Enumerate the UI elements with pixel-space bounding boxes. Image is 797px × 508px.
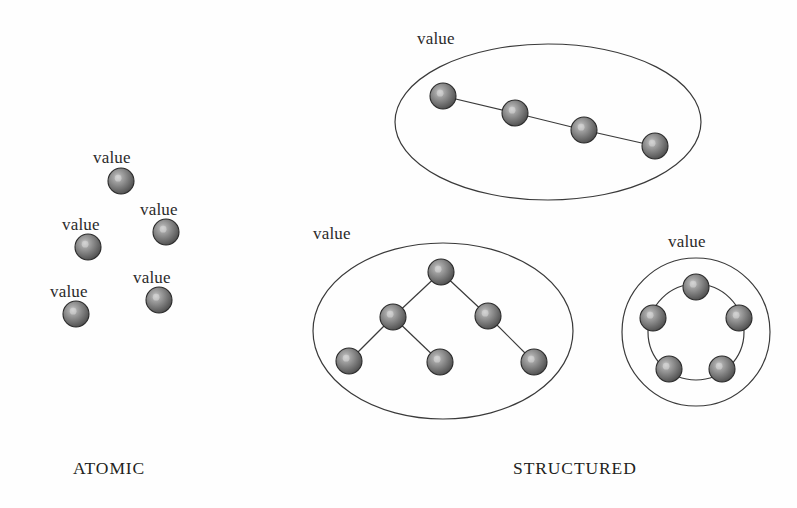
sphere-highlight (482, 310, 489, 317)
structured-value-label-tree: value (313, 224, 351, 244)
sphere-body (380, 304, 406, 330)
sphere-highlight (578, 124, 585, 131)
ring-node-3 (709, 356, 735, 382)
tree-node-5 (427, 349, 453, 375)
sphere-body (108, 168, 134, 194)
sphere-body (571, 117, 597, 143)
diagram-page: valuevaluevaluevaluevaluevaluevaluevalue… (0, 0, 797, 508)
atomic-value-label-2: value (140, 200, 178, 220)
sphere-body (709, 356, 735, 382)
sphere-highlight (733, 312, 740, 319)
sphere-body (726, 305, 752, 331)
sphere-highlight (387, 311, 394, 318)
atomic-value-label-1: value (93, 148, 131, 168)
atomic-value-sphere-4 (146, 287, 172, 313)
atomic-value-sphere-2 (153, 219, 179, 245)
sphere-highlight (343, 355, 350, 362)
sphere-body (642, 133, 668, 159)
sphere-body (427, 349, 453, 375)
sphere-highlight (153, 294, 160, 301)
sphere-body (502, 100, 528, 126)
caption-structured: STRUCTURED (513, 458, 637, 479)
sphere-highlight (716, 363, 723, 370)
sphere-highlight (82, 241, 89, 248)
sphere-highlight (437, 90, 444, 97)
sphere-highlight (70, 308, 77, 315)
ring-node-5 (640, 305, 666, 331)
atomic-value-sphere-5 (63, 301, 89, 327)
sphere-highlight (434, 356, 441, 363)
sphere-body (75, 234, 101, 260)
sphere-highlight (647, 312, 654, 319)
atomic-value-label-5: value (50, 282, 88, 302)
sphere-body (428, 259, 454, 285)
chain-node-2 (502, 100, 528, 126)
tree-node-6 (521, 349, 547, 375)
tree-node-2 (380, 304, 406, 330)
sphere-body (521, 349, 547, 375)
structured-value-label-chain: value (417, 29, 455, 49)
atomic-value-label-4: value (133, 268, 171, 288)
chain-node-3 (571, 117, 597, 143)
sphere-body (63, 301, 89, 327)
atomic-value-sphere-3 (75, 234, 101, 260)
sphere-body (640, 305, 666, 331)
structured-value-label-ring: value (668, 232, 706, 252)
chain-node-4 (642, 133, 668, 159)
caption-atomic: ATOMIC (73, 458, 145, 479)
sphere-highlight (115, 175, 122, 182)
diagram-canvas (0, 0, 797, 508)
sphere-highlight (160, 226, 167, 233)
sphere-body (656, 356, 682, 382)
sphere-highlight (690, 281, 697, 288)
tree-node-3 (475, 303, 501, 329)
tree-node-1 (428, 259, 454, 285)
sphere-highlight (663, 363, 670, 370)
atomic-value-sphere-1 (108, 168, 134, 194)
atomic-value-label-3: value (62, 215, 100, 235)
sphere-body (153, 219, 179, 245)
sphere-body (430, 83, 456, 109)
sphere-highlight (649, 140, 656, 147)
sphere-highlight (509, 107, 516, 114)
sphere-body (475, 303, 501, 329)
ring-node-1 (683, 274, 709, 300)
tree-node-4 (336, 348, 362, 374)
sphere-body (336, 348, 362, 374)
sphere-highlight (528, 356, 535, 363)
ring-node-2 (726, 305, 752, 331)
sphere-body (683, 274, 709, 300)
ring-node-4 (656, 356, 682, 382)
chain-node-1 (430, 83, 456, 109)
sphere-body (146, 287, 172, 313)
sphere-highlight (435, 266, 442, 273)
group-outline-chain (395, 44, 701, 200)
